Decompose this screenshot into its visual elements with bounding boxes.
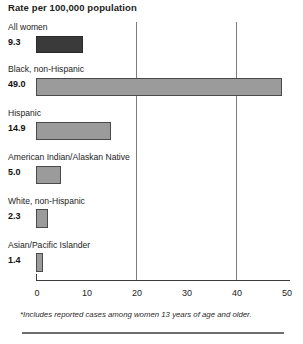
bar-black-non-hispanic (36, 78, 282, 96)
bar-label-american-indian-alaskan-native: American Indian/Alaskan Native (8, 152, 130, 162)
x-tick-0: 0 (34, 288, 39, 298)
bar-value-asian-pacific-islander: 1.4 (8, 255, 21, 265)
bar-all-women (36, 36, 83, 53)
bar-value-american-indian-alaskan-native: 5.0 (8, 167, 21, 177)
bar-label-black-non-hispanic: Black, non-Hispanic (8, 64, 84, 74)
bar-value-hispanic: 14.9 (8, 123, 26, 133)
bottom-divider (22, 332, 284, 334)
x-axis-line (36, 280, 290, 281)
x-tick-10: 10 (82, 288, 92, 298)
bar-hispanic (36, 122, 111, 140)
x-tick-50: 50 (282, 288, 292, 298)
bar-label-white-non-hispanic: White, non-Hispanic (8, 196, 85, 206)
bar-label-asian-pacific-islander: Asian/Pacific Islander (8, 240, 90, 250)
gridline-40 (236, 22, 237, 280)
plot-area: All women 9.3 Black, non-Hispanic 49.0 H… (0, 22, 303, 284)
bar-value-all-women: 9.3 (8, 37, 21, 47)
chart-title: Rate per 100,000 population (8, 2, 137, 13)
bar-value-black-non-hispanic: 49.0 (8, 79, 26, 89)
chart-footnote: *Includes reported cases among women 13 … (20, 310, 252, 319)
x-tick-40: 40 (232, 288, 242, 298)
bar-value-white-non-hispanic: 2.3 (8, 211, 21, 221)
x-tick-30: 30 (182, 288, 192, 298)
x-axis-tick-labels: 0 10 20 30 40 50 (0, 288, 303, 302)
bar-label-hispanic: Hispanic (8, 108, 41, 118)
x-tick-20: 20 (132, 288, 142, 298)
bar-label-all-women: All women (8, 22, 48, 32)
gridline-20 (136, 22, 137, 280)
bar-white-non-hispanic (36, 209, 48, 228)
bar-asian-pacific-islander (36, 253, 43, 272)
bar-american-indian-alaskan-native (36, 166, 61, 184)
